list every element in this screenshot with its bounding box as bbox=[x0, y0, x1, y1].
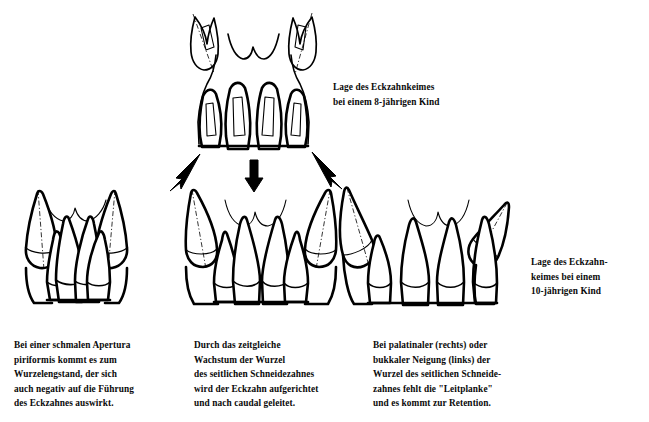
incisor-right-panel-2 bbox=[401, 218, 429, 305]
panel-top-8-year-old bbox=[191, 13, 317, 149]
apertura-piriformis-arch-top bbox=[228, 34, 279, 59]
canine-left-panel-right bbox=[340, 188, 374, 268]
panel-bottom-right bbox=[340, 188, 509, 305]
caption-palatal-buccal-inclination: Bei palatinaler (rechts) oder bukkaler N… bbox=[373, 338, 553, 411]
incisor-middle-4 bbox=[284, 232, 308, 302]
caption-simultaneous-root-growth: Durch das zeitgleiche Wachstum der Wurze… bbox=[194, 338, 366, 411]
figure-canvas: .ln { fill:none; stroke:#000; stroke-wid… bbox=[0, 0, 649, 422]
canine-right-panel-middle bbox=[305, 190, 336, 269]
panel-bottom-left bbox=[26, 190, 127, 303]
label-canine-germ-8-year-old: Lage des Eckzahnkeimes bei einem 8-jähri… bbox=[333, 80, 513, 109]
panel-bottom-middle bbox=[186, 190, 337, 304]
caption-narrow-apertura-piriformis: Bei einer schmalen Apertura piriformis k… bbox=[14, 338, 190, 411]
apertura-piriformis-arch-left bbox=[45, 200, 106, 221]
tooth-top-2 bbox=[226, 83, 251, 149]
tooth-top-3 bbox=[257, 83, 282, 149]
arrow-to-middle-panel bbox=[245, 160, 263, 192]
incisor-middle-2 bbox=[233, 217, 260, 304]
arrow-to-left-panel bbox=[170, 154, 200, 191]
arrow-to-right-panel bbox=[312, 152, 342, 189]
canine-left-panel-middle bbox=[186, 190, 217, 269]
label-canine-germ-10-year-old: Lage des Eckzahn- keimes bei einem 10-jä… bbox=[531, 255, 643, 299]
crown-outline-middle-b bbox=[305, 267, 336, 304]
tooth-top-4 bbox=[286, 90, 308, 147]
tooth-top-1 bbox=[200, 90, 222, 147]
incisor-right-panel-3 bbox=[437, 218, 464, 305]
